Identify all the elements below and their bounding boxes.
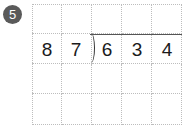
grid-cell[interactable] [122, 64, 152, 94]
grid-cell[interactable] [32, 4, 62, 34]
grid-cell[interactable] [92, 94, 122, 125]
grid-cell[interactable] [32, 94, 62, 125]
grid-cell[interactable] [122, 94, 152, 125]
grid-cell[interactable] [92, 64, 122, 94]
grid-cell[interactable] [152, 94, 182, 125]
dividend-digit-hundreds: 6 [92, 35, 122, 65]
dividend-digit-tens: 3 [122, 35, 152, 65]
problem-number-badge: 5 [3, 5, 22, 24]
division-grid: 8 7 6 3 4 [32, 4, 182, 125]
grid-cell[interactable] [62, 4, 92, 34]
grid-cell[interactable] [62, 64, 92, 94]
dividend-digit-ones: 4 [152, 35, 182, 65]
grid-cell[interactable] [62, 94, 92, 125]
grid-cell[interactable] [122, 4, 152, 34]
divisor-digit-tens: 8 [32, 35, 62, 65]
grid-cell[interactable] [32, 64, 62, 94]
grid-cell[interactable] [152, 64, 182, 94]
grid-cell[interactable] [92, 4, 122, 34]
grid-cell[interactable] [152, 4, 182, 34]
